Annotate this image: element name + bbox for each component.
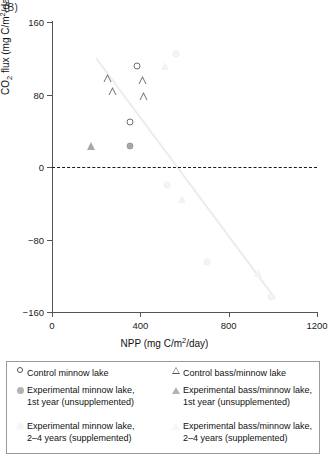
y-tick bbox=[47, 167, 52, 168]
legend-item-control-minnow-lake[interactable]: Control minnow lake bbox=[7, 367, 163, 380]
legend-item-label-line2: 1st year (unsupplemented) bbox=[27, 397, 135, 409]
x-axis-title: NPP (mg C/m2/day) bbox=[0, 336, 329, 349]
legend-item-label: Experimental bass/minnow lake, 1st year … bbox=[183, 384, 312, 408]
y-axis-title-sub: 2 bbox=[5, 76, 14, 80]
data-point-circle-faint bbox=[172, 50, 179, 57]
legend-item-experimental-bass-minnow-1st-year[interactable]: Experimental bass/minnow lake, 1st year … bbox=[163, 384, 319, 420]
data-point-circle-open bbox=[134, 62, 141, 69]
y-axis-title-pre: CO bbox=[0, 80, 11, 95]
y-tick-label: 0 bbox=[39, 162, 44, 173]
zero-reference-line bbox=[52, 167, 317, 168]
y-tick bbox=[47, 240, 52, 241]
legend-item-label: Experimental bass/minnow lake, 2–4 years… bbox=[183, 420, 312, 444]
y-axis-title-post: /day) bbox=[0, 0, 11, 12]
x-tick bbox=[317, 312, 318, 317]
data-point-triangle-open bbox=[103, 74, 112, 82]
data-point-triangle-filled bbox=[87, 142, 95, 150]
x-axis-line bbox=[52, 312, 318, 313]
x-tick-label: 0 bbox=[49, 320, 54, 331]
legend-item-control-bass-minnow-lake[interactable]: Control bass/minnow lake bbox=[163, 367, 319, 380]
legend-row: Experimental minnow lake, 1st year (unsu… bbox=[7, 384, 319, 420]
data-point-circle-open bbox=[126, 118, 133, 125]
x-tick bbox=[52, 312, 53, 317]
data-point-circle-faint bbox=[163, 182, 170, 189]
data-point-triangle-faint bbox=[254, 269, 262, 277]
x-tick-label: 400 bbox=[132, 320, 148, 331]
y-tick-label: 80 bbox=[33, 89, 44, 100]
plot-area: 160800−80−160 04008001200 bbox=[52, 22, 317, 312]
x-axis-title-post: /day) bbox=[186, 338, 208, 349]
y-axis-title: CO2 flux (mg C/m2/day) bbox=[0, 0, 14, 95]
legend-item-label-line1: Experimental bass/minnow lake, bbox=[183, 385, 312, 397]
legend-item-experimental-minnow-2-4-years[interactable]: Experimental minnow lake, 2–4 years (sup… bbox=[7, 420, 163, 453]
data-point-triangle-open bbox=[140, 92, 149, 100]
circle-filled-icon bbox=[13, 384, 27, 394]
legend-item-label: Experimental minnow lake, 1st year (unsu… bbox=[27, 384, 135, 408]
legend-item-experimental-bass-minnow-2-4-years[interactable]: Experimental bass/minnow lake, 2–4 years… bbox=[163, 420, 319, 453]
y-axis-title-sup: 2 bbox=[0, 12, 7, 16]
data-point-circle-faint bbox=[203, 259, 210, 266]
legend-item-label-line2: 2–4 years (supplemented) bbox=[27, 433, 135, 445]
data-point-triangle-open bbox=[109, 87, 118, 95]
x-tick bbox=[140, 312, 141, 317]
legend-item-label: Experimental minnow lake, 2–4 years (sup… bbox=[27, 420, 135, 444]
circle-open-icon bbox=[13, 367, 27, 373]
legend-row: Experimental minnow lake, 2–4 years (sup… bbox=[7, 420, 319, 453]
legend-item-experimental-minnow-1st-year[interactable]: Experimental minnow lake, 1st year (unsu… bbox=[7, 384, 163, 420]
x-tick bbox=[229, 312, 230, 317]
y-tick bbox=[47, 22, 52, 23]
data-point-circle-filled bbox=[126, 143, 133, 150]
y-tick-label: 160 bbox=[28, 17, 44, 28]
x-tick-label: 1200 bbox=[306, 320, 327, 331]
legend-item-label-line2: 2–4 years (supplemented) bbox=[183, 433, 312, 445]
y-tick-label: −160 bbox=[23, 307, 44, 318]
legend-item-label-line1: Experimental minnow lake, bbox=[27, 385, 135, 397]
y-tick bbox=[47, 95, 52, 96]
data-point-triangle-open bbox=[138, 76, 147, 84]
y-axis-title-mid: flux (mg C/m bbox=[0, 16, 11, 75]
x-tick-label: 800 bbox=[221, 320, 237, 331]
triangle-filled-icon bbox=[169, 384, 183, 394]
legend-item-label-line1: Experimental minnow lake, bbox=[27, 421, 135, 433]
data-point-circle-faint bbox=[267, 293, 274, 300]
legend-box: Control minnow lake Control bass/minnow … bbox=[6, 361, 320, 454]
circle-faint-icon bbox=[13, 420, 27, 430]
y-tick-label: −80 bbox=[28, 234, 44, 245]
triangle-open-icon bbox=[169, 367, 183, 374]
legend-item-label: Control minnow lake bbox=[27, 367, 109, 380]
data-point-triangle-faint bbox=[161, 62, 169, 70]
x-axis-title-pre: NPP (mg C/m bbox=[121, 338, 183, 349]
legend-row: Control minnow lake Control bass/minnow … bbox=[7, 362, 319, 384]
legend-item-label: Control bass/minnow lake bbox=[183, 367, 286, 380]
legend-item-label-line2: 1st year (unsupplemented) bbox=[183, 397, 312, 409]
data-point-triangle-faint bbox=[178, 195, 186, 203]
triangle-faint-icon bbox=[169, 420, 183, 430]
legend-item-label-line1: Experimental bass/minnow lake, bbox=[183, 421, 312, 433]
